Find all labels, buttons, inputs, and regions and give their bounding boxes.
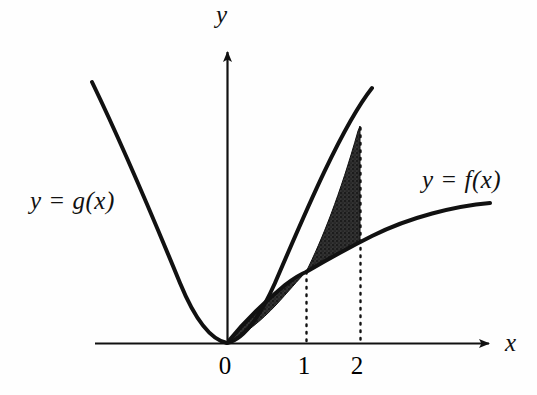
y-axis-label: y — [216, 1, 227, 29]
figure-canvas: y x y = g(x) y = f(x) 0 1 2 — [0, 0, 537, 395]
curve-g — [92, 82, 372, 343]
curve-label-g: y = g(x) — [30, 187, 115, 215]
curve-label-f: y = f(x) — [422, 166, 501, 194]
shaded-region-1-to-2 — [306, 126, 360, 272]
x-axis-label: x — [505, 329, 516, 357]
tick-label-0: 0 — [214, 352, 236, 380]
shaded-region-0-to-1 — [227, 272, 306, 343]
tick-label-1: 1 — [293, 352, 315, 380]
tick-label-2: 2 — [346, 352, 368, 380]
